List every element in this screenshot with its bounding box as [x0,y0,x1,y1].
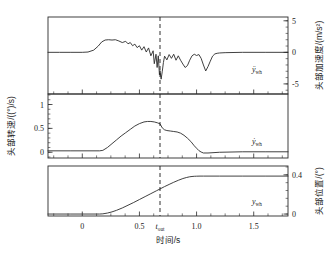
data-curve [48,176,288,214]
position-axis-title: 头部位置/(°) [314,167,324,215]
y-tick-label: 0.5 [34,124,44,133]
panel-position: 00.4ywh [48,166,302,219]
panel-frame [48,17,288,94]
panel-frame [48,166,288,216]
series-label: ywh [251,197,262,207]
x-axis-title: 时间/s [156,235,181,245]
x-tick-label: 0.5 [134,222,144,231]
panel-velocity: 00.51ẏwh [34,94,288,158]
series-label: ÿwh [251,65,262,75]
x-tick-label: 0 [80,222,84,231]
chart-svg: -505ÿwh00.51ẏwh00.4ywh00.51.01.5tout时间/s… [0,0,334,255]
y-tick-label: 0 [292,48,296,57]
y-tick-label: -5 [292,80,299,89]
series-label: ẏwh [251,137,262,147]
acceleration-axis-title: 头部加速度/(m/s²) [314,21,324,91]
x-marker-label: tout [156,222,165,232]
x-tick-label: 1.5 [249,222,259,231]
y-tick-label: 1 [40,101,44,110]
x-tick-label: 1.0 [192,222,202,231]
y-tick-label: 0 [292,210,296,219]
panel-frame [48,94,288,158]
y-tick-label: 5 [292,17,296,26]
y-tick-label: 0 [40,148,44,157]
plot-group: -505ÿwh00.51ẏwh00.4ywh00.51.01.5tout时间/s… [6,17,324,245]
panel-acceleration: -505ÿwh [48,17,299,94]
y-tick-label: 0.4 [292,171,302,180]
velocity-axis-title: 头部转速/((°)/s) [6,96,16,156]
chart-figure: -505ÿwh00.51ẏwh00.4ywh00.51.01.5tout时间/s… [0,0,334,255]
